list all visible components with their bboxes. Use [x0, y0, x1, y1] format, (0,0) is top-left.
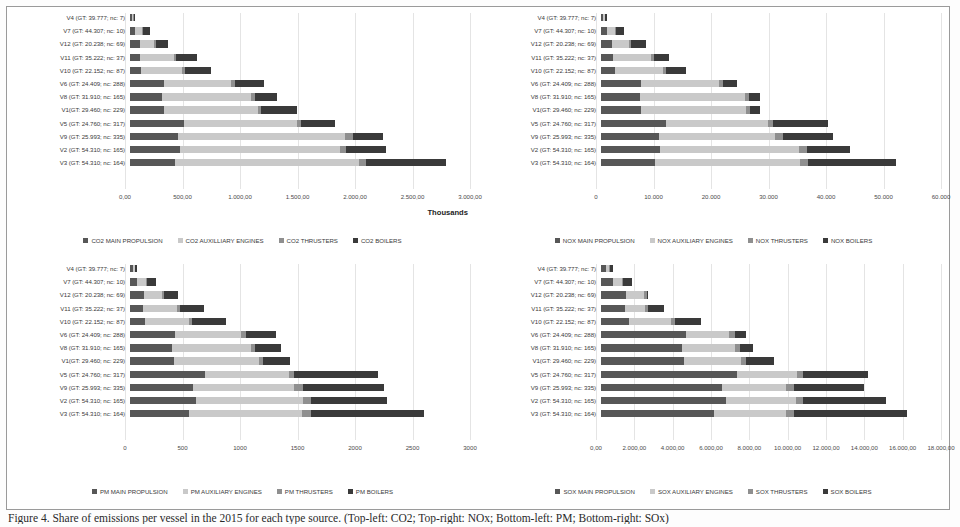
stacked-bar[interactable]	[601, 318, 701, 325]
bar-segment-main_propulsion[interactable]	[130, 318, 145, 325]
bar-segment-thrusters[interactable]	[800, 159, 808, 166]
bar-segment-auxiliary_engines[interactable]	[666, 120, 768, 127]
bar-segment-auxiliary_engines[interactable]	[682, 344, 735, 351]
stacked-bar[interactable]	[130, 133, 383, 140]
legend-item[interactable]: NOX BOILERS	[823, 237, 872, 244]
bar-segment-thrusters[interactable]	[359, 159, 366, 166]
bar-segment-boilers[interactable]	[192, 318, 225, 325]
stacked-bar[interactable]	[130, 27, 150, 34]
stacked-bar[interactable]	[601, 384, 864, 391]
legend-item[interactable]: SOX BOILERS	[823, 488, 872, 495]
bar-segment-main_propulsion[interactable]	[130, 159, 175, 166]
bar-segment-boilers[interactable]	[654, 54, 669, 61]
bar-segment-main_propulsion[interactable]	[130, 133, 178, 140]
bar-segment-auxiliary_engines[interactable]	[607, 27, 614, 34]
bar-segment-boilers[interactable]	[605, 14, 606, 21]
bar-segment-thrusters[interactable]	[796, 397, 803, 404]
bar-segment-main_propulsion[interactable]	[601, 384, 722, 391]
bar-segment-auxiliary_engines[interactable]	[164, 80, 231, 87]
stacked-bar[interactable]	[130, 120, 335, 127]
bar-segment-boilers[interactable]	[808, 159, 896, 166]
bar-segment-boilers[interactable]	[807, 146, 851, 153]
bar-segment-auxiliary_engines[interactable]	[178, 133, 346, 140]
bar-segment-main_propulsion[interactable]	[130, 291, 144, 298]
bar-segment-boilers[interactable]	[156, 40, 168, 47]
bar-segment-boilers[interactable]	[750, 106, 760, 113]
bar-segment-auxiliary_engines[interactable]	[660, 146, 799, 153]
stacked-bar[interactable]	[601, 93, 760, 100]
legend-item[interactable]: SOX AUXILIARY ENGINES	[650, 488, 733, 495]
bar-segment-auxiliary_engines[interactable]	[684, 357, 741, 364]
stacked-bar[interactable]	[601, 397, 886, 404]
bar-segment-boilers[interactable]	[666, 67, 686, 74]
bar-segment-main_propulsion[interactable]	[130, 371, 205, 378]
bar-segment-main_propulsion[interactable]	[130, 93, 162, 100]
stacked-bar[interactable]	[130, 410, 424, 417]
legend-item[interactable]: SOX MAIN PROPULSION	[555, 488, 634, 495]
bar-segment-auxiliary_engines[interactable]	[184, 120, 296, 127]
bar-segment-boilers[interactable]	[235, 80, 263, 87]
bar-segment-auxiliary_engines[interactable]	[172, 344, 250, 351]
bar-segment-boilers[interactable]	[746, 357, 774, 364]
bar-segment-auxiliary_engines[interactable]	[175, 331, 241, 338]
bar-segment-auxiliary_engines[interactable]	[196, 397, 304, 404]
stacked-bar[interactable]	[601, 40, 646, 47]
bar-segment-thrusters[interactable]	[302, 410, 310, 417]
bar-segment-main_propulsion[interactable]	[130, 357, 174, 364]
bar-segment-thrusters[interactable]	[345, 133, 352, 140]
stacked-bar[interactable]	[601, 410, 907, 417]
bar-segment-main_propulsion[interactable]	[130, 397, 196, 404]
bar-segment-auxiliary_engines[interactable]	[145, 318, 189, 325]
stacked-bar[interactable]	[130, 80, 264, 87]
bar-segment-thrusters[interactable]	[775, 133, 783, 140]
stacked-bar[interactable]	[601, 265, 613, 272]
stacked-bar[interactable]	[130, 93, 277, 100]
stacked-bar[interactable]	[601, 278, 632, 285]
bar-segment-main_propulsion[interactable]	[130, 278, 137, 285]
bar-segment-boilers[interactable]	[749, 93, 760, 100]
bar-segment-main_propulsion[interactable]	[601, 344, 682, 351]
bar-segment-auxiliary_engines[interactable]	[164, 106, 258, 113]
bar-segment-boilers[interactable]	[648, 305, 664, 312]
stacked-bar[interactable]	[601, 305, 664, 312]
stacked-bar[interactable]	[130, 318, 226, 325]
bar-segment-main_propulsion[interactable]	[130, 305, 143, 312]
bar-segment-main_propulsion[interactable]	[601, 410, 714, 417]
bar-segment-boilers[interactable]	[616, 27, 624, 34]
bar-segment-auxiliary_engines[interactable]	[135, 27, 142, 34]
bar-segment-main_propulsion[interactable]	[130, 67, 141, 74]
bar-segment-boilers[interactable]	[263, 357, 290, 364]
bar-segment-main_propulsion[interactable]	[601, 40, 612, 47]
bar-segment-main_propulsion[interactable]	[601, 397, 726, 404]
stacked-bar[interactable]	[130, 265, 137, 272]
bar-segment-auxiliary_engines[interactable]	[174, 357, 258, 364]
legend-item[interactable]: CO2 BOILERS	[353, 237, 402, 244]
bar-segment-boilers[interactable]	[675, 318, 701, 325]
bar-segment-boilers[interactable]	[134, 14, 135, 21]
bar-segment-main_propulsion[interactable]	[601, 305, 625, 312]
stacked-bar[interactable]	[130, 357, 290, 364]
bar-segment-auxiliary_engines[interactable]	[175, 159, 359, 166]
bar-segment-auxiliary_engines[interactable]	[143, 305, 177, 312]
bar-segment-auxiliary_engines[interactable]	[625, 305, 646, 312]
bar-segment-boilers[interactable]	[366, 159, 445, 166]
bar-segment-boilers[interactable]	[303, 384, 385, 391]
bar-segment-auxiliary_engines[interactable]	[615, 67, 663, 74]
bar-segment-main_propulsion[interactable]	[601, 357, 684, 364]
bar-segment-boilers[interactable]	[353, 133, 384, 140]
bar-segment-auxiliary_engines[interactable]	[612, 40, 629, 47]
bar-segment-boilers[interactable]	[647, 291, 649, 298]
legend-item[interactable]: PM THRUSTERS	[277, 488, 333, 495]
bar-segment-main_propulsion[interactable]	[130, 384, 193, 391]
bar-segment-boilers[interactable]	[610, 265, 613, 272]
bar-segment-boilers[interactable]	[164, 291, 179, 298]
stacked-bar[interactable]	[130, 344, 281, 351]
bar-segment-auxiliary_engines[interactable]	[144, 291, 162, 298]
bar-segment-boilers[interactable]	[176, 54, 197, 61]
bar-segment-auxiliary_engines[interactable]	[640, 93, 745, 100]
bar-segment-main_propulsion[interactable]	[601, 106, 641, 113]
bar-segment-auxiliary_engines[interactable]	[137, 278, 145, 285]
bar-segment-main_propulsion[interactable]	[601, 159, 655, 166]
stacked-bar[interactable]	[601, 371, 868, 378]
bar-segment-auxiliary_engines[interactable]	[655, 159, 799, 166]
